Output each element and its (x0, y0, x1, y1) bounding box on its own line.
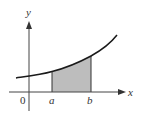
area-under-curve-diagram: y x 0 a b (0, 0, 141, 115)
a-label: a (49, 94, 55, 106)
x-axis-label: x (127, 86, 133, 98)
x-axis-arrow-icon (118, 89, 126, 95)
y-axis-label: y (25, 6, 31, 18)
b-label: b (87, 94, 93, 106)
origin-label: 0 (20, 94, 26, 106)
y-axis-arrow-icon (26, 21, 32, 29)
shaded-area (52, 56, 91, 92)
